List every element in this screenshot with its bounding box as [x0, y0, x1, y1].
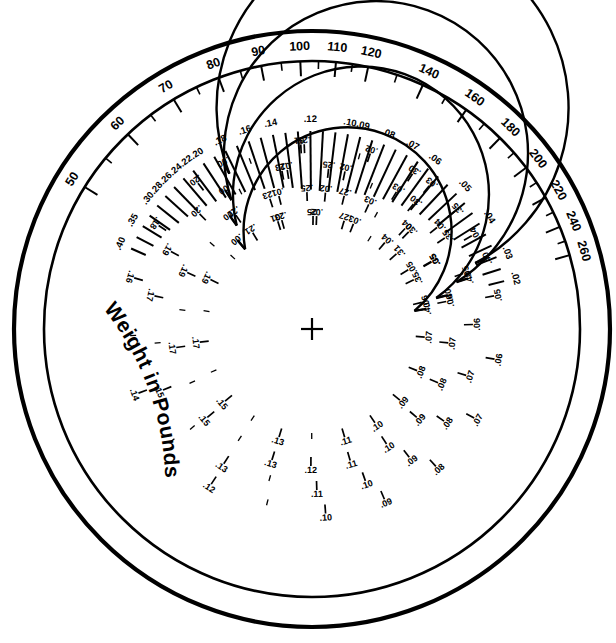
weight-tick-label: 180 [498, 115, 523, 140]
ray-label: .03 [501, 244, 516, 260]
arc-tick-label: .23 [273, 210, 288, 223]
ray-unlabeled [483, 269, 501, 275]
arc-tick-label: .07 [423, 331, 434, 344]
weight-tick-label: 160 [462, 86, 487, 109]
weight-tick-minor [558, 241, 566, 244]
arc-tick-minor [239, 189, 242, 194]
weight-tick-major [365, 67, 368, 82]
weight-tick-major [555, 255, 569, 259]
weight-tick-label: 60 [108, 113, 128, 133]
ray-scale[interactable]: .40.35.30.28.26.24.22.20.18.16.14.12.10.… [112, 113, 523, 286]
arc-tick-label: .09 [378, 496, 393, 510]
weight-tick-minor [508, 153, 514, 158]
arc-tick-label: .12 [305, 465, 318, 475]
page-title-textpath: Weight in Pounds [100, 297, 184, 478]
arc-tick-label: .07 [447, 337, 458, 350]
weight-tick-minor [546, 212, 553, 215]
arc-tick-minor [368, 236, 371, 241]
arc-tick-label: .21 [243, 222, 259, 237]
arc-scale-line-2[interactable] [224, 1, 528, 282]
weight-tick-label: 50 [62, 169, 81, 188]
arc-tick-label: .16 [124, 269, 137, 284]
arc-tick-label: .02 [319, 183, 332, 194]
ray-labeled [489, 281, 505, 285]
arc-tick-label: .17 [144, 288, 156, 302]
ray-label: .12 [304, 113, 317, 124]
arc-tick-minor [267, 499, 268, 505]
ray-label: .06 [427, 150, 444, 167]
arc-tick-label: .27 [338, 210, 353, 223]
weight-tick-major [261, 66, 264, 81]
weight-tick-label: 100 [289, 39, 310, 54]
weight-tick-minor [106, 158, 112, 163]
arc-tick-label: .19 [176, 263, 190, 279]
arc-tick-label: .03 [363, 194, 379, 208]
arc-tick-label: .10 [369, 419, 385, 434]
arc-tick-label: .25 [300, 183, 313, 193]
weight-tick-label: 120 [360, 43, 383, 61]
arc-tick-label: .13 [270, 434, 285, 447]
arc-tick-label: .23 [261, 188, 276, 201]
ray-label: .40 [112, 235, 127, 252]
arc-tick-minor [211, 370, 217, 372]
arc-tick-label: .17 [166, 341, 178, 355]
arc-tick-label: .08 [414, 364, 428, 379]
page-title: Weight in Pounds [100, 297, 184, 478]
arc-tick-label: .05 [492, 288, 504, 302]
weight-tick-label: 70 [156, 77, 175, 96]
weight-tick-major [417, 85, 423, 99]
arc-tick-minor [190, 381, 195, 383]
weight-tick-minor [530, 183, 537, 187]
weight-tick-label: 200 [526, 146, 550, 171]
weight-tick-major [174, 99, 182, 112]
arc-tick-minor [358, 153, 360, 159]
arc-scales-group[interactable]: .00.01.02.03.04.05.06.07.08.09.10.12.14.… [124, 0, 569, 523]
ray-labeled [131, 248, 146, 255]
arc-tick-label: .02 [339, 161, 353, 173]
arc-tick-label: .11 [344, 458, 358, 471]
ray-labeled [273, 135, 284, 188]
arc-tick-label: .02 [364, 143, 379, 156]
arc-tick-label: .13 [214, 459, 230, 474]
weight-tick-major [546, 227, 560, 233]
arc-tick-label: .10 [319, 512, 332, 523]
arc-tick-minor [231, 255, 235, 259]
arc-tick-label: .08 [435, 377, 449, 392]
weight-tick-minor [196, 87, 199, 94]
arc-tick-label: .06 [472, 318, 482, 331]
ray-unlabeled [137, 237, 154, 246]
center-crosshair [301, 318, 323, 340]
arc-tick-label: .10 [381, 440, 397, 455]
weight-tick-minor [151, 115, 156, 121]
arc-tick-label: .11 [311, 489, 323, 499]
ray-label: .14 [263, 116, 279, 130]
arc-tick-minor [155, 343, 161, 344]
arc-tick-minor [269, 475, 271, 481]
arc-tick-minor [375, 212, 378, 217]
arc-tick-label: .25 [307, 207, 320, 217]
arc-tick-minor [210, 242, 215, 246]
arc-tick-label: .13 [263, 457, 278, 470]
weight-tick-major [514, 168, 526, 177]
arc-tick-minor [249, 158, 251, 164]
arc-tick-label: .11 [339, 434, 353, 447]
arc-tick-minor [190, 426, 195, 430]
weight-tick-label: 240 [563, 209, 584, 234]
arc-tick-minor [370, 183, 372, 189]
arc-tick-label: .06 [493, 353, 505, 367]
arc-tick-label: .07 [463, 369, 476, 384]
arc-scale-line-3[interactable] [233, 66, 489, 298]
weight-tick-major [300, 61, 301, 76]
weight-tick-major [85, 187, 98, 195]
nomogram-root: Weight in Pounds 50607080901001101201401… [0, 0, 616, 643]
arc-tick-label: .12 [201, 480, 217, 495]
arc-tick-label: .23 [274, 161, 288, 173]
weight-tick-minor [395, 75, 398, 83]
arc-tick-label: .40 [421, 302, 433, 316]
weight-tick-major [128, 134, 138, 145]
weight-tick-minor [240, 71, 242, 79]
ray-label: .35 [124, 211, 141, 229]
arc-tick-label: .07 [470, 412, 485, 428]
arc-tick-label: .08 [440, 415, 455, 431]
arc-tick-label: .09 [395, 395, 411, 411]
